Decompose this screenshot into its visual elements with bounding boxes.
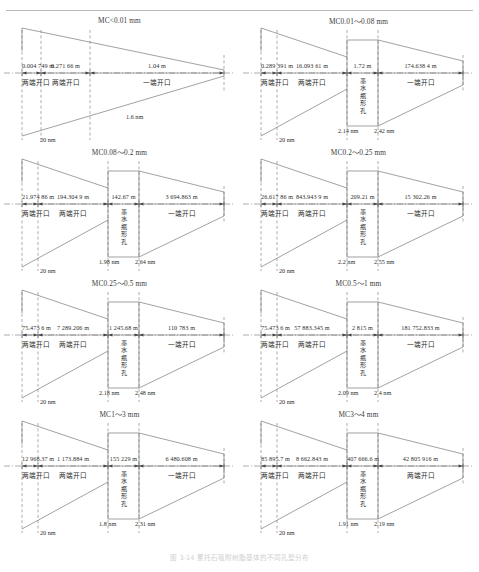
segment-value: 1.72 m — [347, 62, 378, 69]
segment-value: 0.271 66 m — [41, 62, 90, 69]
pore-width-label: 1.6 nm — [126, 113, 143, 120]
segment-value: 15 302.26 m — [378, 193, 463, 200]
segment-label: 两端开口 — [261, 208, 277, 218]
segment-value: 1 245.68 m — [108, 324, 139, 331]
segment-value: 21.974 86 m — [22, 193, 38, 200]
pore-width-label: 2.4 nm — [374, 389, 391, 396]
pore-panel: MC0.5～1 mm75.473 6 m57 883.345 m2 815 m1… — [239, 276, 478, 406]
scale-label: 20 nm — [279, 267, 295, 274]
segment-value: 843.943 9 m — [277, 193, 347, 200]
pore-panel: MC0.2～0.25 mm26.617 86 m843.943 9 m209.2… — [239, 145, 478, 275]
page-header-rule — [6, 10, 473, 11]
segment-value: 3 694.863 m — [139, 193, 224, 200]
segment-label: 两端开口 — [277, 77, 347, 87]
pore-panel: MC0.08～0.2 mm21.974 86 m194.304 9 m142.6… — [0, 145, 239, 275]
pore-panel: MC0.25～0.5 mm75.473 6 m7 289.206 m1 245.… — [0, 276, 239, 406]
scale-label: 20 nm — [40, 398, 56, 405]
segment-label: 两端开口 — [38, 470, 108, 480]
scale-label: 20 nm — [40, 267, 56, 274]
pore-width-label: 2.42 nm — [374, 127, 394, 134]
pore-diagram-grid: MC<0.01 mm0.004 749 m0.271 66 m1.04 m两端开… — [0, 14, 479, 534]
pore-width-label: 2.48 nm — [135, 389, 155, 396]
pore-width-label: 2.19 nm — [374, 520, 394, 527]
segment-label: 两端开口 — [22, 208, 38, 218]
scale-label: 20 nm — [40, 136, 56, 143]
segment-label-pore: 墨水瓶形孔 — [357, 339, 368, 376]
pore-width-label: 1.8 nm — [99, 520, 116, 527]
segment-value: 12 968.37 m — [22, 455, 38, 462]
segment-label: 两端开口 — [22, 470, 38, 480]
segment-value: 194.304 9 m — [38, 193, 108, 200]
segment-label: 两端开口 — [261, 77, 277, 87]
segment-label: 两端开口 — [41, 77, 90, 87]
segment-value: 155 229 m — [108, 455, 139, 462]
segment-label-pore: 墨水瓶形孔 — [357, 77, 368, 114]
segment-label: 一端开口 — [139, 208, 224, 218]
segment-value: 110 783 m — [139, 324, 224, 331]
segment-value: 1 173.884 m — [38, 455, 108, 462]
segment-label: 两端开口 — [22, 77, 41, 87]
segment-label: 一端开口 — [139, 339, 224, 349]
segment-label: 两端开口 — [38, 208, 108, 218]
scale-label: 20 nm — [279, 398, 295, 405]
segment-value: 181 752.833 m — [378, 324, 463, 331]
segment-value: 209.21 m — [347, 193, 378, 200]
segment-label: 一端开口 — [139, 470, 224, 480]
segment-value: 16.093 61 m — [277, 62, 347, 69]
pore-panel: MC1～3 mm12 968.37 m1 173.884 m155 229 m6… — [0, 407, 239, 537]
segment-label: 两端开口 — [277, 339, 347, 349]
segment-label: 一端开口 — [378, 339, 463, 349]
pore-panel: MC<0.01 mm0.004 749 m0.271 66 m1.04 m两端开… — [0, 14, 239, 144]
segment-value: 26.617 86 m — [261, 193, 277, 200]
segment-label: 两端开口 — [261, 470, 277, 480]
segment-label-pore: 墨水瓶形孔 — [118, 470, 129, 507]
segment-label-pore: 墨水瓶形孔 — [357, 208, 368, 245]
pore-panel: MC0.01～0.08 mm0.289 391 m16.093 61 m1.72… — [239, 14, 478, 144]
segment-label: 两端开口 — [378, 470, 463, 480]
segment-value: 75.473 6 m — [22, 324, 38, 331]
pore-width-label: 2.18 nm — [99, 389, 119, 396]
pore-width-label: 2.31 nm — [135, 520, 155, 527]
segment-value: 7 289.206 m — [38, 324, 108, 331]
segment-value: 0.289 391 m — [261, 62, 277, 69]
pore-width-label: 2.64 nm — [135, 258, 155, 265]
segment-value: 0.004 749 m — [22, 62, 41, 69]
segment-label: 两端开口 — [22, 339, 38, 349]
segment-value: 407 666.6 m — [347, 455, 378, 462]
scale-label: 20 nm — [40, 529, 56, 536]
figure-caption: 图 3-14 累托石吸附树脂基体的不同孔型分布 — [0, 552, 479, 562]
segment-label: 一端开口 — [378, 77, 463, 87]
segment-label-pore: 墨水瓶形孔 — [118, 208, 129, 245]
segment-label: 两端开口 — [38, 339, 108, 349]
pore-width-label: 2.55 nm — [374, 258, 394, 265]
segment-value: 1.04 m — [90, 62, 224, 69]
segment-value: 174.638 4 m — [378, 62, 463, 69]
segment-value: 57 883.345 m — [277, 324, 347, 331]
pore-width-label: 2.2 nm — [338, 258, 355, 265]
segment-label: 一端开口 — [90, 77, 224, 87]
pore-width-label: 1.91 nm — [338, 520, 358, 527]
segment-value: 6 480.608 m — [139, 455, 224, 462]
segment-value: 42 805 916 m — [378, 455, 463, 462]
pore-width-label: 2.09 nm — [338, 389, 358, 396]
segment-value: 2 815 m — [347, 324, 378, 331]
scale-label: 20 nm — [279, 529, 295, 536]
scale-label: 20 nm — [279, 136, 295, 143]
segment-value: 75.473 6 m — [261, 324, 277, 331]
segment-label: 两端开口 — [277, 208, 347, 218]
segment-label-pore: 墨水瓶形孔 — [118, 339, 129, 376]
segment-label: 一端开口 — [378, 208, 463, 218]
segment-label: 两端开口 — [261, 339, 277, 349]
pore-panel: MC3～4 mm85 895.7 m8 662.843 m407 666.6 m… — [239, 407, 478, 537]
segment-value: 142.67 m — [108, 193, 139, 200]
pore-width-label: 1.98 nm — [99, 258, 119, 265]
segment-value: 8 662.843 m — [277, 455, 347, 462]
segment-value: 85 895.7 m — [261, 455, 277, 462]
segment-label: 两端开口 — [277, 470, 347, 480]
pore-width-label: 2.14 nm — [338, 127, 358, 134]
segment-label-pore: 墨水瓶形孔 — [357, 470, 368, 507]
